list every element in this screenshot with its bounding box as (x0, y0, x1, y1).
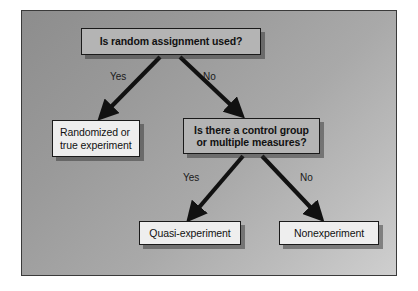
edge-label-control-yes: Yes (183, 172, 199, 183)
edge-root-yes (108, 57, 160, 110)
node-is-there-control-group[interactable]: Is there a control group or multiple mea… (183, 118, 320, 154)
node-quasi-line-1: Quasi-experiment (149, 227, 230, 239)
edge-control-no (262, 156, 314, 211)
edge-label-root-yes: Yes (110, 71, 126, 82)
node-control-line-1: Is there a control group (194, 124, 309, 136)
node-randomized-line-2: true experiment (60, 139, 131, 151)
node-nonexperiment[interactable]: Nonexperiment (279, 221, 379, 245)
node-root-line-1: Is random assignment used? (100, 35, 243, 47)
node-nonexperiment-line-1: Nonexperiment (294, 227, 364, 239)
node-randomized-true-experiment[interactable]: Randomized or true experiment (52, 120, 140, 157)
edge-root-no (180, 57, 234, 108)
edge-label-control-no: No (300, 172, 313, 183)
node-control-line-2: or multiple measures? (197, 136, 307, 148)
edge-label-root-no: No (203, 71, 216, 82)
flowchart-canvas: Is random assignment used? Randomized or… (0, 0, 418, 291)
node-quasi-experiment[interactable]: Quasi-experiment (139, 221, 241, 245)
node-randomized-line-1: Randomized or (60, 126, 130, 138)
edge-control-yes (196, 156, 243, 211)
node-is-random-assignment-used[interactable]: Is random assignment used? (81, 28, 261, 55)
